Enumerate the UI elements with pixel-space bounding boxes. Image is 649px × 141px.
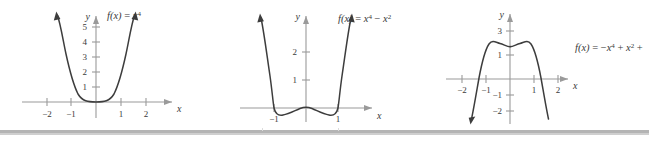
chart-3-y-axis-arrowhead bbox=[507, 14, 513, 22]
chart-1-curve-arrowhead-left bbox=[54, 12, 61, 21]
chart-3-curve-arrowhead-left bbox=[469, 117, 476, 125]
chart-2-y-axis-arrowhead bbox=[303, 16, 309, 24]
chart-2-formula-exp2: 2 bbox=[388, 13, 392, 21]
chart-3-ytick-label--2: −2 bbox=[492, 106, 502, 116]
chart-3-svg: −2 −1 1 2 3 1 −1 −2 y x f(x) = −x4 + x2 … bbox=[428, 0, 644, 130]
chart-3-xtick-label--2: −2 bbox=[457, 85, 467, 95]
chart-1-y-axis-arrowhead bbox=[93, 16, 99, 24]
chart-1-svg: −2 −1 1 2 1 2 3 4 5 y x f(x) = x4 bbox=[0, 0, 216, 130]
chart-2-formula-fx: f(x) bbox=[338, 13, 353, 25]
chart-1-ytick-label-4: 4 bbox=[83, 37, 88, 47]
chart-3-formula-fx: f(x) bbox=[575, 42, 590, 54]
chart-1-formula-fx: f(x) bbox=[107, 10, 122, 22]
chart-3-xtick-label-1: 1 bbox=[532, 85, 537, 95]
chart-1-x-axis-label: x bbox=[176, 103, 182, 114]
chart-2-y-axis-label: y bbox=[295, 11, 301, 22]
chart-1-xtick-label--2: −2 bbox=[42, 109, 52, 119]
chart-3-xtick-label-2: 2 bbox=[556, 85, 561, 95]
chart-1-formula: f(x) = x4 bbox=[107, 10, 141, 23]
chart-3-formula-op: + bbox=[615, 42, 626, 53]
chart-panel-2: −1 1 1 2 y x f(x) = x4 − x2 bbox=[212, 0, 428, 130]
chart-1-x-axis-arrowhead bbox=[164, 99, 172, 105]
chart-1-ytick-label-1: 1 bbox=[83, 82, 88, 92]
chart-1-xtick-label-1: 1 bbox=[119, 109, 124, 119]
chart-1-formula-exp: 4 bbox=[137, 10, 141, 18]
figure-strip: −2 −1 1 2 1 2 3 4 5 y x f(x) = x4 bbox=[0, 0, 649, 141]
chart-2-formula-op: − bbox=[372, 13, 383, 24]
chart-3-ytick-label-3: 3 bbox=[498, 26, 503, 36]
chart-1-xtick-label--1: −1 bbox=[66, 109, 76, 119]
chart-3-formula-eq: = − bbox=[590, 42, 607, 53]
chart-1-y-axis-label: y bbox=[85, 11, 91, 22]
chart-2-formula: f(x) = x4 − x2 bbox=[338, 13, 392, 26]
chart-3-y-axis-label: y bbox=[499, 9, 505, 20]
chart-1-ytick-label-5: 5 bbox=[83, 22, 88, 32]
chart-3-x-axis-arrowhead bbox=[560, 76, 568, 82]
chart-3-ytick-label-1: 1 bbox=[498, 50, 503, 60]
chart-2-x-axis-arrowhead bbox=[364, 105, 372, 111]
chart-1-xtick-label-2: 2 bbox=[144, 109, 149, 119]
chart-3-ytick-label--1: −1 bbox=[492, 90, 502, 100]
rule-seam-right bbox=[338, 128, 339, 131]
chart-2-xtick-label--1: −1 bbox=[269, 114, 279, 124]
rule-seam-left bbox=[262, 128, 263, 131]
chart-2-ytick-label-2: 2 bbox=[293, 47, 298, 57]
chart-2-curve-arrowhead-left bbox=[257, 14, 264, 23]
chart-3-xtick-label--1: −1 bbox=[481, 85, 491, 95]
chart-1-formula-eq: = bbox=[122, 10, 133, 21]
chart-2-svg: −1 1 1 2 y x f(x) = x4 − x2 bbox=[212, 0, 428, 130]
chart-3-formula: f(x) = −x4 + x2 + 2 bbox=[575, 42, 644, 55]
chart-panel-3: −2 −1 1 2 3 1 −1 −2 y x f(x) = −x4 + x2 … bbox=[428, 0, 644, 130]
chart-2-formula-eq: = bbox=[353, 13, 364, 24]
chart-1-ytick-label-3: 3 bbox=[83, 52, 88, 62]
chart-3-formula-tail: + 2 bbox=[634, 42, 644, 53]
chart-3-x-axis-label: x bbox=[572, 80, 578, 91]
chart-2-xtick-label-1: 1 bbox=[336, 114, 341, 124]
chart-panel-1: −2 −1 1 2 1 2 3 4 5 y x f(x) = x4 bbox=[0, 0, 216, 130]
chart-2-ytick-label-1: 1 bbox=[293, 75, 298, 85]
horizontal-rule-secondary bbox=[0, 133, 649, 135]
chart-2-x-axis-label: x bbox=[376, 110, 382, 121]
chart-1-ytick-label-2: 2 bbox=[83, 67, 88, 77]
